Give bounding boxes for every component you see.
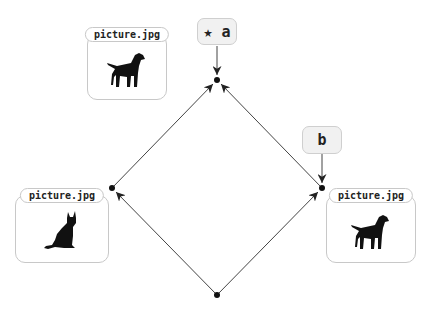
diagram-canvas: picture.jpg picture.jpg picture.jpg ★ a …: [0, 0, 435, 314]
graph-edges: [0, 0, 435, 314]
ref-label-a-text: ★ a: [203, 23, 230, 41]
filename-tab: picture.jpg: [85, 27, 169, 42]
ref-label-b-text: b: [317, 131, 326, 149]
ref-label-b[interactable]: b: [302, 126, 342, 154]
node-left[interactable]: [109, 185, 115, 191]
image-card-left[interactable]: picture.jpg: [15, 195, 109, 263]
node-right[interactable]: [319, 185, 325, 191]
image-card-right[interactable]: picture.jpg: [326, 195, 416, 263]
edge-bottom-left: [116, 192, 217, 295]
node-bottom[interactable]: [214, 292, 220, 298]
filename-tab: picture.jpg: [329, 188, 413, 203]
node-top[interactable]: [214, 77, 220, 83]
filename-tab: picture.jpg: [20, 188, 104, 203]
cat-silhouette-icon: [42, 208, 82, 256]
ref-label-a[interactable]: ★ a: [197, 18, 237, 45]
edge-bottom-right: [217, 192, 318, 295]
dog-silhouette-icon: [349, 210, 393, 256]
image-card-top-left[interactable]: picture.jpg: [87, 34, 167, 100]
dog-silhouette-icon: [105, 49, 149, 93]
